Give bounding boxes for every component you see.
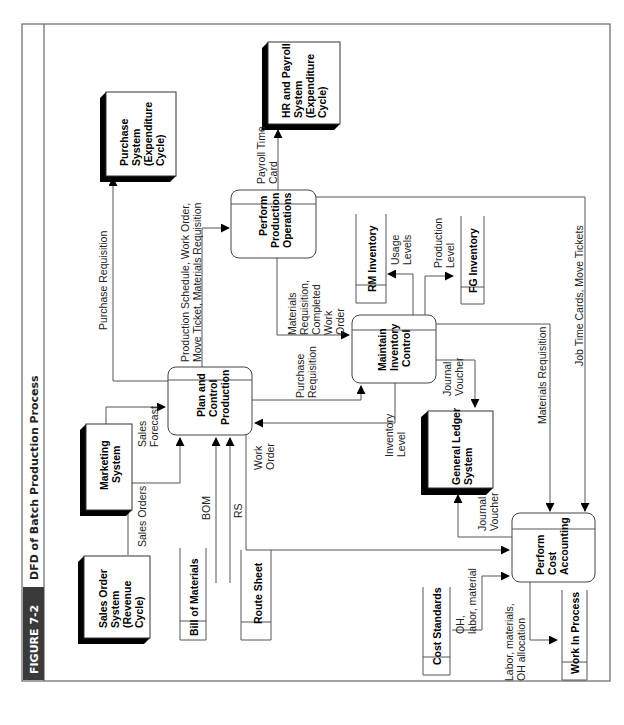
label-purchase-requisition-mid: Purchase Requisition: [294, 346, 318, 398]
label-production-schedule: Production Schedule, Work Order, Move Ti…: [179, 200, 203, 362]
label-journal-voucher-2: Journal Voucher: [476, 492, 500, 531]
label-journal-voucher-1: Journal Voucher: [441, 357, 465, 396]
svg-text:Cost Standards: Cost Standards: [431, 587, 443, 665]
flow-production-level: [425, 276, 453, 315]
entity-purchase-system: Purchase System (Expenditure Cycle): [100, 92, 176, 182]
svg-text:Plan and Control P: Plan and Control Production: [195, 370, 231, 425]
label-purchase-requisition-top: Purchase Requisition: [97, 231, 109, 330]
figure-number: FIGURE 7-2: [28, 605, 41, 674]
datastore-fg-inventory: FG Inventory: [461, 216, 484, 304]
label-usage-levels: Usage Levels: [389, 232, 413, 265]
entity-hr-payroll-system: HR and Payroll System (Expenditure Cycle…: [262, 40, 340, 130]
label-oh-labor-material: OH, labor, material: [454, 568, 478, 634]
process-perform-production-operations: Perform Production Operations: [231, 190, 316, 258]
datastore-route-sheet: Route Sheet: [241, 550, 271, 640]
svg-text:Route Sheet: Route Sheet: [252, 562, 264, 624]
flow-usage-levels: [388, 274, 413, 315]
flow-labor-materials-oh: [530, 582, 557, 640]
datastore-cost-standards: Cost Standards: [423, 587, 450, 675]
process-maintain-inventory-control: Maintain Inventory Control: [352, 315, 436, 383]
svg-text:RM Inventory: RM Inventory: [366, 225, 378, 292]
process-plan-control-production: Plan and Control Production: [168, 367, 252, 435]
label-rs: RS: [232, 503, 244, 518]
label-sales-forecast: Sales Forecast: [136, 406, 160, 447]
datastore-bill-of-materials: Bill of Materials: [180, 548, 206, 640]
entity-sales-order-system: Sales Order System (Revenue Cycle): [78, 556, 150, 644]
datastore-rm-inventory: RM Inventory: [356, 214, 386, 303]
process-perform-cost-accounting: Perform Cost Accounting: [512, 513, 595, 582]
label-work-order: Work Order: [252, 443, 276, 470]
dfd-diagram: FIGURE 7-2 DFD of Batch Production Proce…: [0, 0, 624, 725]
label-labor-materials-oh: Labor, materials, OH allocation: [503, 600, 527, 681]
svg-text:FG Inventory: FG Inventory: [467, 228, 479, 293]
flow-inventory-level: [255, 383, 395, 423]
label-sales-orders: Sales Orders: [136, 486, 148, 547]
flow-production-schedule: [202, 228, 229, 367]
figure-title: DFD of Batch Production Process: [28, 375, 41, 580]
datastore-work-in-process: Work In Process: [562, 590, 587, 680]
entity-marketing-system: Marketing System: [80, 424, 132, 516]
entity-general-ledger-system: General Ledger System: [421, 405, 493, 495]
label-payroll-time-card: Payroll Time Card: [255, 123, 279, 184]
flow-purchase-requisition-top: [113, 178, 168, 381]
label-materials-req-completed: Materials Requisition, Completed Work Or…: [286, 277, 346, 335]
label-job-time-cards: Job Time Cards, Move Tickets: [573, 225, 585, 366]
svg-text:Work In Process: Work In Process: [569, 592, 581, 674]
label-production-level: Production Level: [432, 215, 456, 268]
label-bom: BOM: [200, 496, 212, 520]
label-materials-requisition: Materials Requisition: [536, 326, 548, 424]
svg-text:Bill of Materials: Bill of Materials: [188, 558, 200, 636]
